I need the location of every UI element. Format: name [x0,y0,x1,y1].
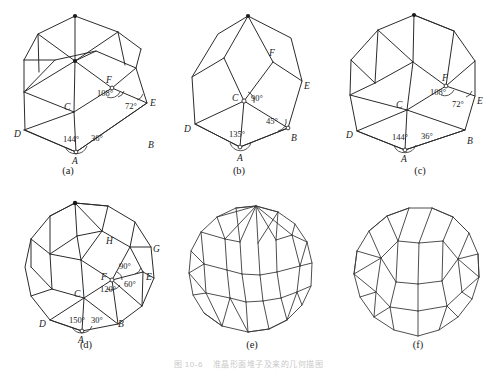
panel-c-apex-vertex [412,13,416,17]
panel-d-angle-90: 90° [119,261,131,271]
panel-c-diagram: A B C D E F 144° 36° 108° 72° [338,4,490,164]
panel-d-label-E: E [145,272,152,282]
panel-b-label-D: D [183,124,191,134]
panel-c-angle-72: 72° [452,99,464,109]
panel-d-label-H: H [105,236,114,246]
panel-a-diagram: A B C D E F 144° 36° 108° 72° [8,4,163,164]
panel-b-vertex-A [238,145,242,149]
panel-a-angle-36: 36° [91,133,103,143]
panel-c-label-A: A [400,154,407,164]
panel-d-apex-vertex [73,201,77,205]
panel-d-sublabel: (d) [66,339,106,350]
figure-caption-number: 图 10-6 [174,360,203,369]
panel-d-diagram: A B C D E F G H 150° 30° 120° 60° 90° [20,192,168,344]
panel-c-label-F: F [441,73,448,83]
panel-b-angle-135: 135° [229,129,245,139]
panel-a-sublabel: (a) [48,165,88,176]
panel-d-label-F: F [100,272,107,282]
panel-a-label-C: C [64,102,71,112]
panel-b-diagram: A B C D E F 135° 45° 90° [178,4,318,164]
panel-e-diagram [184,196,320,340]
panel-b-vertex-B [286,126,290,130]
figure-caption: 图 10-6准晶形面堆子及来的几何描图 [0,358,497,373]
panel-d-label-C: C [74,289,81,299]
panel-a-angle-108: 108° [97,88,113,98]
panel-d-label-D: D [38,319,46,329]
panel-b-label-B: B [291,133,297,143]
panel-c-label-B: B [467,136,473,146]
panel-d-angle-60: 60° [124,279,136,289]
panel-a-label-B: B [148,140,154,150]
panel-a-center-vertex [73,59,77,63]
panel-d-vertex-F [110,278,114,282]
panel-b-label-C: C [232,93,239,103]
panel-b-label-E: E [303,81,310,91]
panel-a-label-F: F [105,75,112,85]
panel-f-edges [354,208,479,336]
panel-a-angle-72: 72° [125,101,137,111]
panel-c-angle-108: 108° [430,87,446,97]
panel-c-angle-36: 36° [421,131,433,141]
panel-d-label-G: G [153,244,160,254]
figure-root: A B C D E F 144° 36° 108° 72° (a) [0,0,497,373]
panel-c-sublabel: (c) [400,165,440,176]
panel-c-edges [350,15,475,150]
panel-d-angle-30: 30° [91,315,103,325]
figure-caption-text: 准晶形面堆子及来的几何描图 [213,360,324,369]
panel-a-label-D: D [13,129,21,139]
panel-b-label-F: F [268,48,275,58]
panel-b-edges [192,16,302,147]
panel-c-label-E: E [476,96,483,106]
panel-b-apex-vertex [246,14,250,18]
panel-a-label-E: E [149,98,156,108]
panel-d-label-B: B [118,319,124,329]
panel-e-sublabel: (e) [232,339,272,350]
panel-b-angle-45: 45° [266,116,278,126]
panel-d-edges [25,203,154,331]
panel-e-edges [189,206,312,332]
panel-b-angle-90: 90° [251,93,263,103]
panel-a-edges [24,16,147,152]
panel-b-label-A: A [236,153,243,163]
panel-f-diagram [348,196,488,344]
panel-c-angle-144: 144° [392,132,408,142]
panel-d-angle-150: 150° [69,315,85,325]
panel-a-angle-144: 144° [63,134,79,144]
panel-b-sublabel: (b) [219,165,259,176]
panel-c-vertex-A [403,148,407,152]
panel-c-label-D: D [345,130,353,140]
panel-a-apex-vertex [73,14,77,18]
panel-d-vertex-A [80,329,84,333]
panel-f-sublabel: (f) [398,339,438,350]
panel-b-vertex-C [242,99,246,103]
panel-d-angle-120: 120° [100,284,116,294]
panel-c-label-C: C [396,100,403,110]
